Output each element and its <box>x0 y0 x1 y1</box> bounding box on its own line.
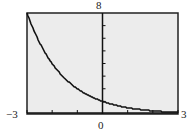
x-min-label: −3 <box>6 109 18 120</box>
origin-label: 0 <box>98 120 104 131</box>
y-max-label: 8 <box>96 0 102 11</box>
calculator-graph-screen <box>0 0 191 134</box>
x-max-label: 3 <box>181 109 187 120</box>
